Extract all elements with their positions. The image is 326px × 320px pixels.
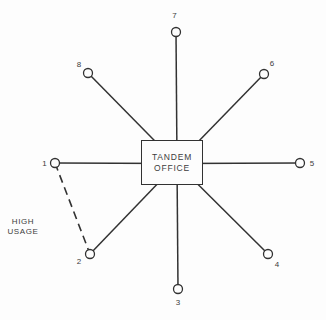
tandem-office-star-diagram: 12345678 TANDEM OFFICE HIGH USAGE xyxy=(0,0,326,320)
office-box-label-line1: TANDEM xyxy=(152,152,192,163)
high-usage-label-line1: HIGH xyxy=(2,217,44,227)
node-circle-6 xyxy=(260,70,269,79)
office-box-label-line2: OFFICE xyxy=(154,163,190,174)
node-label-6: 6 xyxy=(270,59,275,68)
node-circle-2 xyxy=(86,250,95,259)
tandem-office-box: TANDEM OFFICE xyxy=(141,140,203,185)
node-label-8: 8 xyxy=(77,60,82,69)
node-circle-8 xyxy=(84,69,93,78)
node-label-7: 7 xyxy=(172,11,177,20)
node-circle-1 xyxy=(51,159,60,168)
node-circle-4 xyxy=(264,250,273,259)
node-label-5: 5 xyxy=(310,159,315,168)
high-usage-label: HIGH USAGE xyxy=(2,217,44,237)
node-label-3: 3 xyxy=(176,298,181,307)
link-line-1-2 xyxy=(55,163,90,254)
high-usage-label-line2: USAGE xyxy=(2,227,44,237)
node-label-2: 2 xyxy=(77,257,82,266)
node-circle-5 xyxy=(296,159,305,168)
node-circle-7 xyxy=(172,28,181,37)
node-label-4: 4 xyxy=(275,260,280,269)
node-circle-3 xyxy=(174,285,183,294)
node-label-1: 1 xyxy=(42,159,47,168)
